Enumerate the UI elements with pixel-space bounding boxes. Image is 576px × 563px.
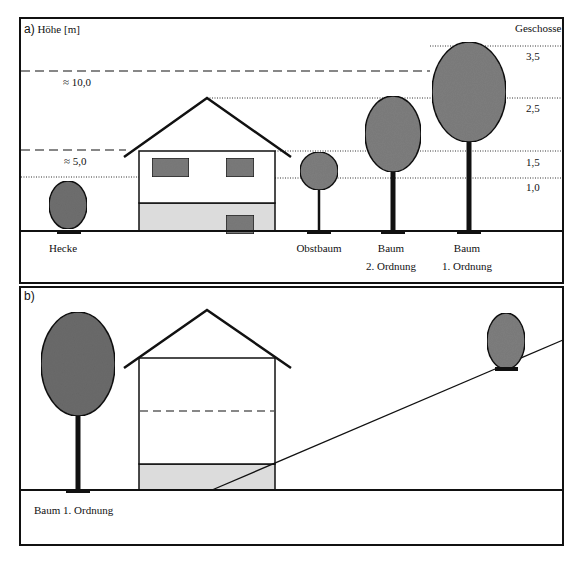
panel-b-label: b): [24, 290, 35, 302]
tree-first-order: [432, 42, 506, 234]
storey-mark-3-5: 3,5: [526, 50, 540, 62]
roof: [124, 98, 291, 157]
label-tree-1-line1: Baum: [454, 242, 480, 254]
label-hedge: Hecke: [49, 242, 77, 254]
label-tree-1-line2: 1. Ordnung: [442, 260, 492, 272]
house-b: [124, 310, 291, 490]
tree-first-order-b: [41, 312, 115, 493]
storey-mark-2-5: 2,5: [526, 102, 540, 114]
storeys-title: Geschosse: [515, 22, 561, 34]
house-a: [124, 98, 291, 234]
window-right: [226, 158, 254, 177]
height-mark-10: ≈ 10,0: [63, 76, 91, 88]
hedge: [49, 181, 87, 234]
basement: [139, 464, 275, 490]
panel-a-header: a) Höhe [m]: [24, 23, 80, 35]
label-tree-2-line1: Baum: [378, 242, 404, 254]
basement: [139, 203, 275, 231]
tree-second-order: [365, 96, 421, 234]
window-left: [152, 158, 189, 177]
panel-b-caption: Baum 1. Ordnung: [34, 504, 113, 516]
fruit-tree: [300, 152, 338, 234]
panel-a-label: a): [24, 22, 35, 36]
label-fruit-tree: Obstbaum: [296, 242, 341, 254]
storey-mark-1-5: 1,5: [526, 156, 540, 168]
axis-title: Höhe [m]: [37, 23, 79, 35]
distant-tree: [487, 313, 525, 371]
panel-a: [20, 18, 563, 283]
storey-mark-1-0: 1,0: [526, 181, 540, 193]
height-mark-5: ≈ 5,0: [64, 155, 87, 167]
label-tree-2-line2: 2. Ordnung: [366, 260, 416, 272]
